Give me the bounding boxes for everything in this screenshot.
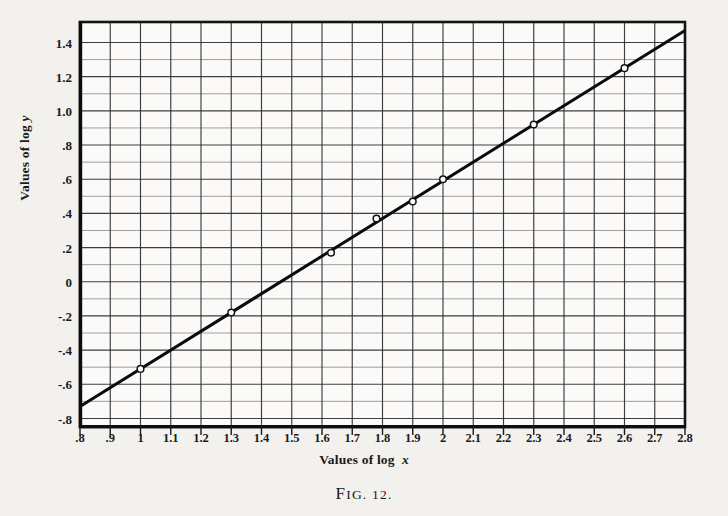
- y-axis-title: Values of log y: [17, 58, 33, 258]
- figure-caption-lead: F: [336, 484, 347, 503]
- x-tick-label: 2.8: [665, 432, 705, 445]
- x-axis-title-text: Values of log: [319, 452, 398, 467]
- x-axis-title-variable: x: [402, 452, 409, 467]
- figure-caption-number: 12.: [372, 487, 392, 502]
- figure-caption: FIG. 12.: [0, 484, 728, 504]
- figure-caption-word: IG.: [346, 487, 372, 502]
- x-axis-tick-labels: .8.911.11.21.31.41.51.61.71.81.922.12.22…: [0, 0, 728, 516]
- y-axis-title-text: Values of log: [17, 122, 32, 201]
- y-axis-title-variable: y: [17, 115, 32, 121]
- figure-log-log-plot: 1.41.21.0.8.6.4.20-.2-.4-.6-.8 .8.911.11…: [0, 0, 728, 516]
- x-axis-title: Values of log x: [0, 452, 728, 468]
